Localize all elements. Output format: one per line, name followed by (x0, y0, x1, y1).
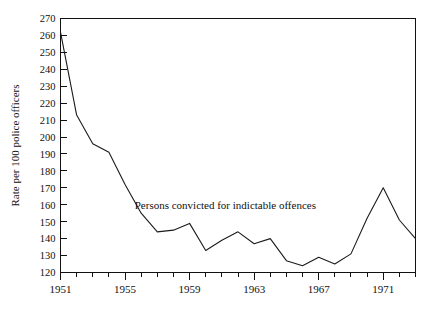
y-tick-label: 190 (40, 149, 56, 160)
y-tick-label: 240 (40, 64, 56, 75)
data-series-line (61, 32, 416, 266)
x-axis-ticks (61, 273, 416, 280)
x-tick-label: 1963 (243, 283, 266, 295)
x-tick-label: 1951 (50, 283, 72, 295)
line-chart-plot: 1201301401501601701801902002102202302402… (0, 0, 436, 309)
y-tick-label: 200 (40, 132, 56, 143)
y-tick-label: 130 (40, 250, 56, 261)
y-tick-label: 140 (40, 233, 56, 244)
data-series-lines (61, 32, 416, 266)
y-tick-label: 120 (40, 267, 56, 278)
y-tick-label: 260 (40, 30, 56, 41)
y-tick-label: 170 (40, 183, 56, 194)
y-axis-title: Rate per 100 police officers (9, 85, 21, 207)
y-tick-label: 180 (40, 166, 56, 177)
y-tick-label: 250 (40, 47, 56, 58)
x-tick-label: 1955 (114, 283, 137, 295)
y-axis-tick-labels: 1201301401501601701801902002102202302402… (40, 13, 56, 278)
plot-frame (61, 19, 416, 273)
x-tick-label: 1959 (179, 283, 202, 295)
series-annotation-layer: Persons convicted for indictable offence… (135, 199, 316, 211)
x-tick-label: 1971 (372, 283, 394, 295)
series-annotation-label: Persons convicted for indictable offence… (135, 199, 316, 211)
y-tick-label: 230 (40, 81, 56, 92)
y-axis-title-label: Rate per 100 police officers (9, 85, 21, 207)
chart-figure: 1201301401501601701801902002102202302402… (0, 0, 436, 309)
y-tick-label: 160 (40, 200, 56, 211)
y-tick-label: 270 (40, 13, 56, 24)
y-tick-label: 150 (40, 217, 56, 228)
y-tick-label: 210 (40, 115, 56, 126)
x-tick-label: 1967 (308, 283, 331, 295)
y-tick-label: 220 (40, 98, 56, 109)
plot-border (61, 19, 416, 273)
x-axis-tick-labels: 195119551959196319671971 (50, 283, 395, 295)
